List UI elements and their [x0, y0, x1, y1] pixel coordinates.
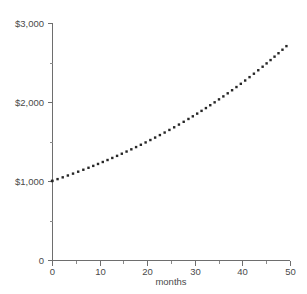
- series-point: [121, 153, 123, 155]
- series-point: [173, 126, 175, 128]
- y-axis-tick-label: 0: [39, 255, 44, 266]
- x-axis-tick-label: 50: [285, 266, 296, 277]
- series-point: [154, 136, 156, 138]
- series-point: [187, 118, 189, 120]
- series-point: [240, 83, 242, 85]
- series-point: [196, 112, 198, 114]
- y-axis-tick-label: $2,000: [15, 97, 44, 108]
- series-point: [227, 92, 229, 94]
- series-point: [130, 148, 132, 150]
- series-point: [125, 150, 127, 152]
- series-point: [235, 86, 237, 88]
- series-point: [87, 167, 89, 169]
- series-point: [231, 89, 233, 91]
- series-point: [102, 161, 104, 163]
- series-point: [135, 146, 137, 148]
- series-point: [111, 157, 113, 159]
- series-point: [257, 69, 259, 71]
- series-point: [116, 155, 118, 157]
- series-point: [253, 73, 255, 75]
- series-point: [178, 123, 180, 125]
- series-point: [222, 95, 224, 97]
- series-point: [106, 159, 108, 161]
- growth-line-chart: 0$1,000$2,000$3,000 01020304050 months: [0, 0, 307, 294]
- series-point: [273, 55, 275, 57]
- series-point: [269, 59, 271, 61]
- series-point: [248, 76, 250, 78]
- y-axis-tick-label: $1,000: [15, 176, 44, 187]
- series-point: [218, 98, 220, 100]
- x-axis-title: months: [155, 276, 186, 287]
- chart-background: [0, 0, 307, 294]
- x-axis-tick-label: 0: [50, 266, 55, 277]
- series-point: [159, 134, 161, 136]
- series-point: [168, 129, 170, 131]
- series-point: [97, 163, 99, 165]
- series-point: [163, 131, 165, 133]
- series-point: [72, 172, 74, 174]
- series-point: [140, 144, 142, 146]
- y-axis-tick-label: $3,000: [15, 18, 44, 29]
- series-point: [149, 139, 151, 141]
- x-axis-tick-label: 10: [95, 266, 106, 277]
- series-point: [213, 101, 215, 103]
- series-point: [182, 121, 184, 123]
- x-axis-tick-label: 40: [237, 266, 248, 277]
- series-point: [200, 110, 202, 112]
- series-point: [62, 176, 64, 178]
- series-point: [277, 52, 279, 54]
- series-point: [244, 79, 246, 81]
- series-point: [265, 62, 267, 64]
- series-point: [281, 49, 283, 51]
- series-point: [261, 66, 263, 68]
- series-point: [205, 107, 207, 109]
- series-point: [67, 174, 69, 176]
- series-point: [209, 104, 211, 106]
- series-point: [192, 115, 194, 117]
- series-point: [285, 45, 287, 47]
- series-point: [82, 169, 84, 171]
- chart-container: 0$1,000$2,000$3,000 01020304050 months: [0, 0, 307, 294]
- series-point: [144, 141, 146, 143]
- series-point: [92, 165, 94, 167]
- x-axis-tick-label: 30: [190, 266, 201, 277]
- series-point: [56, 178, 58, 180]
- x-axis-tick-label: 20: [142, 266, 153, 277]
- series-point: [51, 180, 53, 182]
- series-point: [77, 170, 79, 172]
